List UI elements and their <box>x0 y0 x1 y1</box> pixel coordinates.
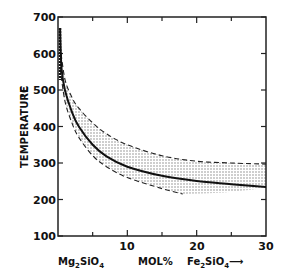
x-tick-label-20: 20 <box>189 240 205 253</box>
x-ticks <box>93 17 232 236</box>
y-axis-unit: °C <box>19 86 30 98</box>
y-tick-label: 300 <box>33 157 56 170</box>
y-tick-label: 400 <box>33 121 56 134</box>
stippled-band <box>60 46 266 194</box>
x-left-label: Mg2SiO4 <box>58 256 104 270</box>
x-right-label: Fe2SiO4⟶ <box>187 256 243 270</box>
y-tick-label: 700 <box>33 11 56 24</box>
y-tick-label: 600 <box>33 48 56 61</box>
chart: 700600500400300200100 TEMPERATURE °C 10 … <box>0 0 281 271</box>
x-tick-label-30: 30 <box>258 240 274 253</box>
y-tick-labels: 700600500400300200100 <box>33 11 56 243</box>
y-tick-label: 500 <box>33 84 56 97</box>
x-axis-title: MOL% <box>138 256 173 267</box>
y-tick-label: 100 <box>33 230 56 243</box>
y-tick-label: 200 <box>33 194 56 207</box>
chart-canvas: 700600500400300200100 TEMPERATURE °C 10 … <box>0 0 281 271</box>
x-tick-label-10: 10 <box>119 240 135 253</box>
